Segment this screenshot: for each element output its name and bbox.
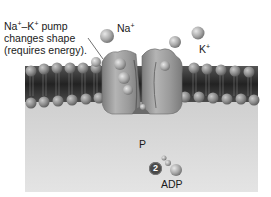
sodium-ion-label: Na+: [117, 22, 135, 34]
step-number-badge: 2: [149, 162, 162, 175]
pump-callout-line2: changes shape: [4, 32, 75, 44]
phosphate-label: P: [139, 138, 146, 150]
pump-callout-line1: Na+–K+ pump: [4, 20, 68, 32]
pump-callout-line3: (requires energy).: [4, 44, 87, 56]
adp-label: ADP: [161, 178, 183, 190]
phosphate-group: [140, 104, 146, 110]
sodium-ion-released: [100, 29, 114, 43]
potassium-ion: [192, 27, 205, 40]
pump-site-bulge: [160, 61, 170, 71]
potassium-ion-label: K+: [199, 43, 210, 55]
na-k-pump-diagram: Na+–K+ pump changes shape (requires ener…: [0, 0, 271, 197]
potassium-ion: [169, 36, 181, 48]
sodium-ion-edge: [91, 57, 101, 67]
callout-leader-line: [88, 38, 103, 59]
